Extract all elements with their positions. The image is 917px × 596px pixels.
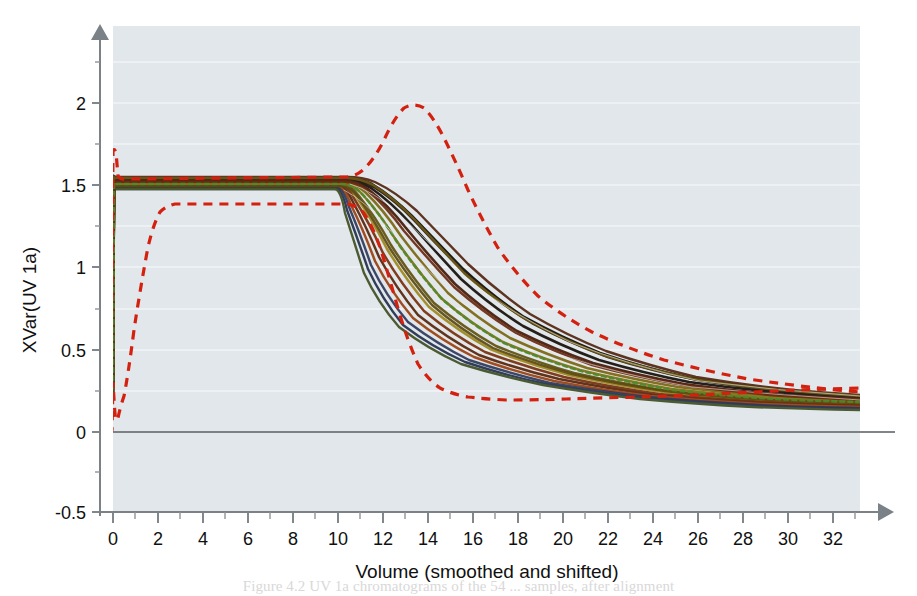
plot-background xyxy=(113,26,860,512)
x-tick-label: 12 xyxy=(373,529,393,549)
chromatogram-figure: 2 1.5 1 0.5 0 -0.5 xyxy=(0,0,917,596)
x-tick-label: 14 xyxy=(418,529,438,549)
y-tick-label: 0 xyxy=(76,423,86,443)
chart-svg: 2 1.5 1 0.5 0 -0.5 xyxy=(0,0,917,596)
x-tick-label: 16 xyxy=(463,529,483,549)
x-tick-label: 20 xyxy=(553,529,573,549)
x-minor-ticks xyxy=(135,512,855,519)
x-tick-label: 32 xyxy=(823,529,843,549)
x-tick-label: 10 xyxy=(328,529,348,549)
x-tick-label: 4 xyxy=(198,529,208,549)
y-tick-label: -0.5 xyxy=(55,503,86,523)
y-tick-label: 1.5 xyxy=(61,176,86,196)
x-tick-label: 22 xyxy=(598,529,618,549)
figure-caption-partial: Figure 4.2 UV 1a chromatograms of the 54… xyxy=(0,578,917,596)
x-tick-label: 2 xyxy=(153,529,163,549)
y-tick-labels: 2 1.5 1 0.5 0 -0.5 xyxy=(55,94,86,523)
x-tick-label: 0 xyxy=(108,529,118,549)
x-tick-label: 26 xyxy=(688,529,708,549)
x-tick-label: 6 xyxy=(243,529,253,549)
x-tick-label: 28 xyxy=(733,529,753,549)
x-tick-label: 18 xyxy=(508,529,528,549)
y-ticks xyxy=(92,103,100,512)
x-tick-label: 24 xyxy=(643,529,663,549)
y-axis-title: XVar(UV 1a) xyxy=(19,247,40,353)
x-tick-label: 8 xyxy=(288,529,298,549)
x-tick-labels: 0 2 4 6 8 10 12 14 16 18 20 22 24 26 28 … xyxy=(108,529,843,549)
x-ticks xyxy=(113,512,833,523)
y-tick-label: 0.5 xyxy=(61,341,86,361)
x-tick-label: 30 xyxy=(778,529,798,549)
y-tick-label: 1 xyxy=(76,258,86,278)
y-tick-label: 2 xyxy=(76,94,86,114)
